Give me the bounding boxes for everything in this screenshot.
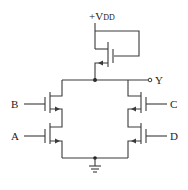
arrow-icon xyxy=(131,139,136,144)
arrow-icon xyxy=(98,61,103,66)
transistor-b: B xyxy=(11,80,62,127)
transistor-a: A xyxy=(11,123,62,158)
vdd-label: +VDD xyxy=(89,10,115,22)
output-label: Y xyxy=(155,74,163,86)
ground-icon xyxy=(89,158,101,172)
input-label-d: D xyxy=(170,130,178,142)
input-label-b: B xyxy=(11,98,18,110)
arrow-icon xyxy=(55,107,60,112)
output-terminal xyxy=(148,78,152,82)
arrow-icon xyxy=(55,139,60,144)
circuit-diagram: +VDD Y B A C xyxy=(0,0,188,190)
transistor-c: C xyxy=(128,80,177,127)
arrow-icon xyxy=(131,107,136,112)
load-transistor xyxy=(95,23,139,80)
input-label-c: C xyxy=(170,98,177,110)
input-label-a: A xyxy=(11,130,19,142)
transistor-d: D xyxy=(128,123,178,158)
